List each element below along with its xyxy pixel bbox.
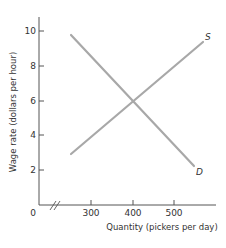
y-tick-label: 4: [30, 130, 36, 140]
y-ticks: [39, 31, 44, 170]
y-tick-label: 6: [30, 96, 36, 106]
x-tick-label: 300: [82, 208, 99, 218]
supply-label: S: [205, 32, 211, 42]
y-axis-title: Wage rate (dollars per hour): [8, 52, 18, 172]
demand-curve: [71, 35, 194, 166]
y-tick-labels: 10 8 6 4 2: [25, 26, 37, 175]
x-ticks: [91, 200, 174, 205]
supply-curve: [71, 42, 203, 154]
y-tick-label: 2: [30, 165, 36, 175]
x-axis-title: Quantity (pickers per day): [106, 222, 217, 232]
demand-label: D: [196, 167, 203, 177]
x-tick-label: 500: [165, 208, 182, 218]
supply-demand-chart: 10 8 6 4 2 0 300 400 500 Quantity (picke…: [0, 0, 226, 248]
x-tick-label: 400: [124, 208, 141, 218]
origin-label: 0: [30, 208, 36, 218]
y-tick-label: 10: [25, 26, 37, 36]
x-tick-labels: 0 300 400 500: [30, 208, 183, 218]
y-tick-label: 8: [30, 61, 36, 71]
